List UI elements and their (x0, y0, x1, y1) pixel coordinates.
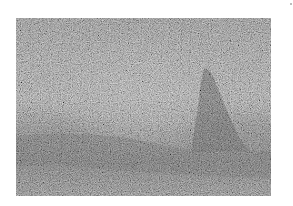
noisy-landscape-photo (16, 18, 271, 196)
corner-speck (290, 3, 292, 5)
noise-overlay-2 (16, 18, 271, 196)
photo-canvas (16, 18, 271, 196)
